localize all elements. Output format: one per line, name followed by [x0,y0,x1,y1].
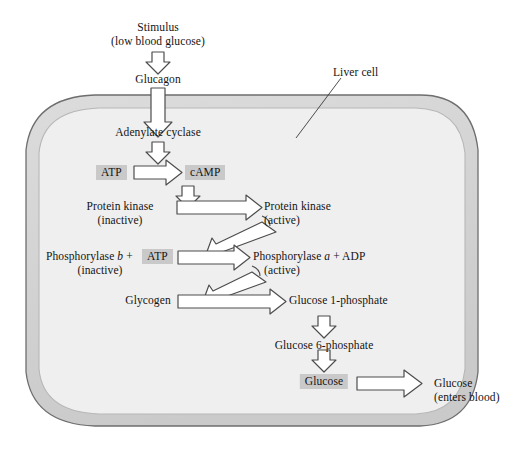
protein-kinase-active-line1: Protein kinase [264,200,331,212]
protein-kinase-active-label: Protein kinase (active) [264,199,331,227]
diagram-graphics [0,0,507,453]
camp-text: cAMP [185,165,225,180]
phosphorylase-a-label: Phosphorylase a + ADP [253,250,365,264]
glycogen-label: Glycogen [125,294,171,308]
stimulus-line2: (low blood glucose) [111,35,205,47]
atp-label-2: ATP [142,250,173,264]
protein-kinase-inactive-line1: Protein kinase [87,200,154,212]
glucose-intracellular-label: Glucose [300,375,348,389]
phosphorylase-b-label: Phosphorylase b + [46,250,133,264]
phosphorylase-a-post: + ADP [330,250,365,262]
atp-2-text: ATP [142,249,173,264]
stimulus-label: Stimulus (low blood glucose) [111,20,205,48]
protein-kinase-inactive-label: Protein kinase (inactive) [87,199,154,227]
phosphorylase-b-inactive-label: (inactive) [77,264,122,278]
adenylate-cyclase-label: Adenylate cyclase [115,126,201,140]
phosphorylase-a-active-label: (active) [264,264,300,278]
glucagon-label: Glucagon [135,73,181,87]
phosphorylase-a-pre: Phosphorylase [253,250,324,262]
camp-label: cAMP [185,166,225,180]
stimulus-line1: Stimulus [137,21,179,33]
phosphorylase-b-pre: Phosphorylase [46,250,117,262]
phosphorylase-b-post: + [123,250,133,262]
arrow-stimulus-to-glucagon [146,52,170,74]
liver-cell-label: Liver cell [333,66,378,80]
glucose-1-phosphate-label: Glucose 1-phosphate [289,294,388,308]
protein-kinase-active-line2: (active) [264,214,300,226]
glucose-intracellular-text: Glucose [300,374,348,389]
glucose-6-phosphate-label: Glucose 6-phosphate [275,339,374,353]
atp-label-1: ATP [96,166,127,180]
protein-kinase-inactive-line2: (inactive) [97,214,142,226]
glucose-blood-line1: Glucose [434,377,472,389]
atp-1-text: ATP [96,165,127,180]
pathway-diagram: Stimulus (low blood glucose) Glucagon Li… [0,0,507,453]
glucose-blood-label: Glucose (enters blood) [434,376,500,404]
glucose-blood-line2: (enters blood) [434,391,500,403]
